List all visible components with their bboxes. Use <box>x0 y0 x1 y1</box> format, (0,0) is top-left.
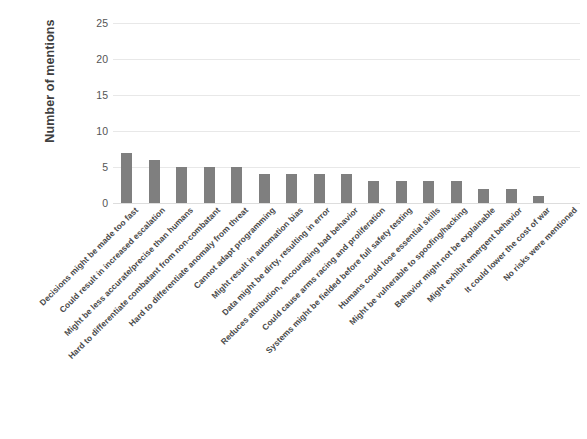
plot-area <box>113 23 580 203</box>
y-tick-label: 10 <box>82 125 108 137</box>
bar <box>423 181 434 203</box>
y-tick-label: 25 <box>82 17 108 29</box>
bar <box>506 189 517 203</box>
bar <box>314 174 325 203</box>
y-tick-label: 5 <box>82 161 108 173</box>
bars <box>113 23 580 203</box>
y-tick-label: 0 <box>82 197 108 209</box>
bar <box>478 189 489 203</box>
y-tick-label: 15 <box>82 89 108 101</box>
bar <box>533 196 544 203</box>
bar <box>149 160 160 203</box>
bar <box>231 167 242 203</box>
x-axis-category-labels: Decisions might be made too fastCould re… <box>113 205 580 435</box>
y-axis-title: Number of mentions <box>43 1 57 161</box>
bar <box>259 174 270 203</box>
bar <box>121 153 132 203</box>
bar <box>396 181 407 203</box>
bar <box>368 181 379 203</box>
bar-chart: Number of mentions 0510152025 Decisions … <box>0 0 587 439</box>
bar <box>451 181 462 203</box>
bar <box>204 167 215 203</box>
bar <box>176 167 187 203</box>
y-axis-tick-labels: 0510152025 <box>82 23 108 203</box>
bar <box>341 174 352 203</box>
axis-baseline <box>113 203 580 204</box>
bar <box>286 174 297 203</box>
y-tick-label: 20 <box>82 53 108 65</box>
